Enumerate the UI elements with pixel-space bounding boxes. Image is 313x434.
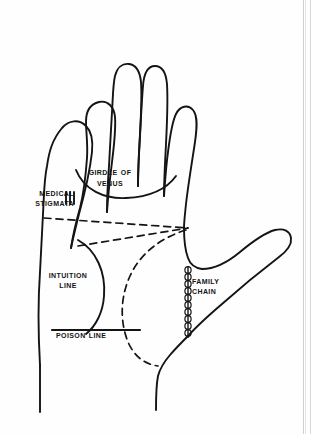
label-poison-line: Poison Line (56, 330, 132, 340)
family-chain-line (185, 266, 191, 338)
label-intuition-line: Intuition Line (32, 270, 104, 290)
page-edge-line-inner (303, 0, 304, 434)
hand-diagram-svg (0, 0, 313, 434)
label-family-chain: Family Chain (192, 276, 252, 296)
dashed-guide-lines (44, 218, 188, 366)
palmistry-diagram: Girdle of Venus Medical Stigmata Intuiti… (0, 0, 313, 434)
label-medical-stigmata: Medical Stigmata (12, 188, 74, 207)
label-girdle-of-venus: Girdle of Venus (74, 166, 146, 187)
middle-finger-outline (107, 64, 141, 212)
hand-outline (39, 64, 292, 412)
wrist-right-edge (156, 336, 188, 410)
pinky-finger-outline (164, 107, 197, 228)
palm-right-edge (184, 228, 202, 269)
head-line-dashed (78, 228, 188, 246)
page-edge-line-middle (305, 0, 306, 434)
page-edge-line-outer (310, 0, 311, 434)
life-line-dashed (122, 230, 186, 366)
heart-line-dashed (44, 218, 188, 228)
